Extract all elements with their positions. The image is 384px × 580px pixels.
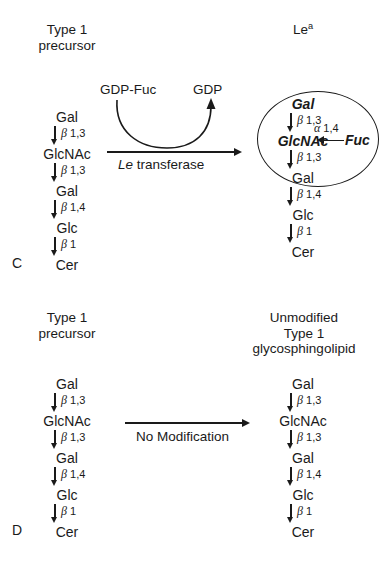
bond-link-4: β 1 — [248, 223, 358, 244]
panel-c-right-header: Lea — [248, 22, 358, 38]
cofactor-out-label: GDP — [193, 82, 222, 97]
bond-arrow-head — [287, 480, 293, 486]
bond-link-4: β 1 — [12, 503, 122, 524]
panel-d-left-header: Type 1 precursor — [12, 310, 122, 341]
panel-letter-d: D — [12, 523, 22, 537]
bond-label-3: β 1,4 — [61, 468, 85, 480]
reaction-arrow-shaft-c — [107, 151, 235, 153]
bond-link-1: β 1,3 — [248, 112, 358, 133]
panel-d-right-chain: Gal β 1,3 GlcNAc β 1,3 Gal β 1,4 Glc β 1… — [248, 376, 358, 540]
bond-link-4: β 1 — [248, 503, 358, 524]
residue-gal-1: Gal — [248, 376, 358, 392]
bond-arrow-head — [51, 480, 57, 486]
bond-link-3: β 1,4 — [248, 186, 358, 207]
residue-gal-1: Gal — [12, 376, 122, 392]
panel-d-right-header-line3: glycosphingolipid — [232, 341, 376, 357]
bond-label-1: β 1,3 — [61, 127, 85, 139]
residue-glc-1: Glc — [12, 220, 122, 236]
residue-cer-1: Cer — [248, 524, 358, 540]
panel-d-right-header: Unmodified Type 1 glycosphingolipid — [232, 310, 376, 357]
bond-arrow-head — [287, 237, 293, 243]
bond-link-3: β 1,4 — [12, 466, 122, 487]
bond-label-4: β 1 — [297, 225, 312, 237]
bond-arrow-head — [287, 517, 293, 523]
panel-letter-c: C — [12, 256, 22, 270]
residue-cer-1: Cer — [12, 257, 122, 273]
panel-d-right-header-line2: Type 1 — [232, 326, 376, 342]
panel-d-left-header-line1: Type 1 — [12, 310, 122, 326]
bond-label-2: β 1,3 — [61, 431, 85, 443]
residue-glc-1: Glc — [248, 487, 358, 503]
panel-d-right-header-line1: Unmodified — [232, 310, 376, 326]
fuc-branch-arrow-head — [317, 136, 324, 144]
bond-arrow-head — [51, 406, 57, 412]
residue-cer-1: Cer — [12, 524, 122, 540]
reaction-arrow-shaft-d — [125, 422, 243, 424]
residue-fuc: Fuc — [345, 132, 370, 148]
fuc-branch-arrow-shaft — [322, 140, 344, 142]
panel-c-left-header: Type 1 precursor — [12, 22, 122, 53]
residue-glcnac-1: GlcNAc — [12, 146, 122, 162]
residue-gal-1: Gal — [248, 96, 358, 112]
cofactor-in-label: GDP-Fuc — [100, 82, 156, 97]
bond-label-2: β 1,3 — [61, 164, 85, 176]
bond-arrow-head — [51, 176, 57, 182]
reaction-label-c-rest: transferase — [133, 157, 204, 172]
bond-label-3: β 1,4 — [297, 468, 321, 480]
bond-link-1: β 1,3 — [12, 392, 122, 413]
residue-glcnac-1: GlcNAc — [248, 413, 358, 429]
bond-label-4: β 1 — [297, 505, 312, 517]
panel-d-left-chain: Gal β 1,3 GlcNAc β 1,3 Gal β 1,4 Glc β 1… — [12, 376, 122, 540]
bond-link-2: β 1,3 — [248, 429, 358, 450]
bond-arrow-head — [51, 139, 57, 145]
reaction-label-c: Le transferase — [118, 157, 204, 172]
panel-c-right-header-main: Le — [293, 22, 308, 37]
bond-arrow-head — [51, 213, 57, 219]
panel-c-left-chain: Gal β 1,3 GlcNAc β 1,3 Gal β 1,4 Glc β 1… — [12, 109, 122, 273]
reaction-label-c-italic: Le — [118, 157, 133, 172]
panel-c-right-chain: Gal β 1,3 GlcNAc β 1,3 Gal β 1,4 Glc β 1… — [248, 96, 358, 260]
bond-link-4: β 1 — [12, 236, 122, 257]
bond-label-3: β 1,4 — [297, 188, 321, 200]
bond-arrow-head — [287, 443, 293, 449]
bond-arrow-head — [287, 163, 293, 169]
bond-label-4: β 1 — [61, 238, 76, 250]
bond-arrow-head — [287, 406, 293, 412]
cofactor-curved-arrow — [113, 98, 223, 158]
pathway-figure: Type 1 precursor Lea Gal β 1,3 GlcNAc β … — [0, 0, 384, 580]
bond-label-1: β 1,3 — [61, 394, 85, 406]
bond-link-2: β 1,3 — [248, 149, 358, 170]
bond-link-1: β 1,3 — [12, 125, 122, 146]
bond-link-3: β 1,4 — [12, 199, 122, 220]
panel-c-left-header-line2: precursor — [12, 38, 122, 54]
bond-link-2: β 1,3 — [12, 162, 122, 183]
bond-link-3: β 1,4 — [248, 466, 358, 487]
reaction-arrow-head-c — [234, 148, 242, 156]
bond-label-2: β 1,3 — [297, 431, 321, 443]
residue-cer-1: Cer — [248, 244, 358, 260]
bond-arrow-head — [287, 126, 293, 132]
residue-gal-2: Gal — [12, 450, 122, 466]
bond-arrow-head — [51, 517, 57, 523]
bond-label-1: β 1,3 — [297, 394, 321, 406]
bond-label-4: β 1 — [61, 505, 76, 517]
bond-arrow-head — [287, 200, 293, 206]
bond-label-2: β 1,3 — [297, 151, 321, 163]
panel-d-left-header-line2: precursor — [12, 326, 122, 342]
residue-gal-2: Gal — [248, 450, 358, 466]
panel-c-left-header-line1: Type 1 — [12, 22, 122, 38]
bond-label-3: β 1,4 — [61, 201, 85, 213]
bond-arrow-head — [51, 443, 57, 449]
bond-link-1: β 1,3 — [248, 392, 358, 413]
fuc-bond-label: α 1,4 — [314, 122, 339, 134]
residue-gal-2: Gal — [12, 183, 122, 199]
residue-glc-1: Glc — [248, 207, 358, 223]
reaction-label-d: No Modification — [136, 429, 229, 444]
panel-c-right-header-superscript: a — [308, 21, 313, 31]
residue-gal-2: Gal — [248, 170, 358, 186]
residue-glcnac-1: GlcNAc — [12, 413, 122, 429]
residue-glc-1: Glc — [12, 487, 122, 503]
bond-link-2: β 1,3 — [12, 429, 122, 450]
bond-arrow-head — [51, 250, 57, 256]
residue-gal-1: Gal — [12, 109, 122, 125]
